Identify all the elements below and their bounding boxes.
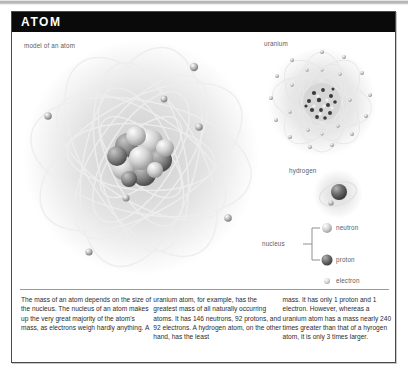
hydrogen-proton (331, 184, 347, 200)
infographic-page: ATOM model of an atom (0, 0, 408, 376)
main-atom-caption: model of an atom (24, 42, 75, 49)
hydrogen-electron (328, 200, 333, 205)
legend-label-electron: electron (336, 277, 360, 284)
main-atom-svg (16, 34, 266, 282)
paragraph-1: The mass of an atom depends on the size … (21, 295, 153, 332)
hydrogen-diagram: hydrogen (294, 164, 372, 220)
top-strip (0, 0, 408, 5)
text-column-3: mass. It has only 1 proton and 1 electro… (283, 295, 395, 363)
nucleus-bracket (303, 228, 320, 260)
page-title: ATOM (21, 15, 62, 29)
uranium-diagram: uranium (262, 40, 382, 158)
content-frame: ATOM model of an atom (11, 11, 396, 363)
uranium-svg (262, 40, 382, 158)
title-bar: ATOM (12, 12, 395, 32)
uranium-caption: uranium (264, 40, 288, 47)
body-text: The mass of an atom depends on the size … (12, 295, 395, 363)
neutron-swatch (322, 223, 332, 233)
section-divider (20, 289, 389, 290)
legend-label-proton: proton (336, 256, 355, 263)
main-atom-diagram: model of an atom (16, 34, 266, 282)
legend-svg (260, 218, 390, 288)
hydrogen-caption: hydrogen (289, 167, 316, 174)
text-column-1: The mass of an atom depends on the size … (12, 295, 153, 363)
proton-swatch (322, 255, 333, 266)
legend-nucleus-label: nucleus (262, 240, 285, 247)
legend-label-neutron: neutron (336, 224, 358, 231)
paragraph-2: uranium atom, for example, has the great… (153, 295, 282, 341)
diagram-stage: model of an atom (12, 32, 395, 290)
legend: nucleus neutron proton electron (260, 218, 390, 288)
uranium-nucleus (303, 83, 341, 121)
electron-swatch (324, 278, 330, 284)
paragraph-3: mass. It has only 1 proton and 1 electro… (283, 295, 395, 341)
text-column-2: uranium atom, for example, has the great… (153, 295, 282, 363)
